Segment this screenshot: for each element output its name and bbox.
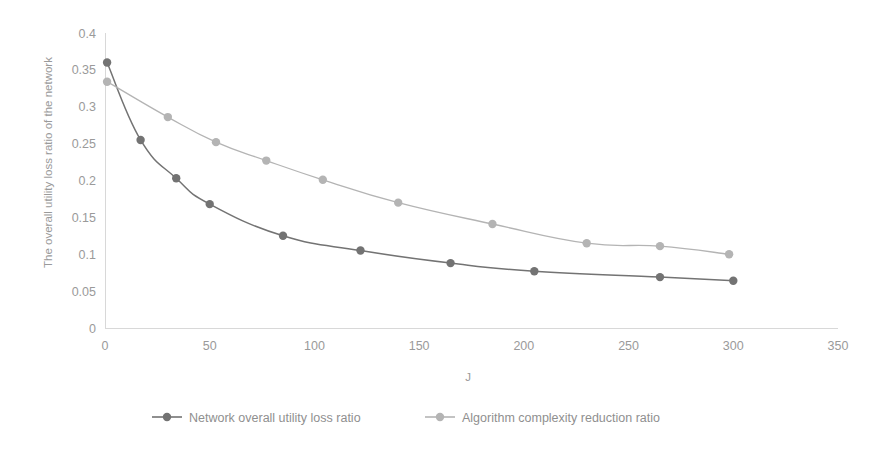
series-line [107, 63, 733, 281]
x-axis-tick-labels: 050100150200250300350 [102, 339, 849, 353]
series-marker [488, 220, 496, 228]
y-tick-label: 0.35 [72, 63, 96, 77]
legend-item-label: Algorithm complexity reduction ratio [462, 411, 660, 425]
series-marker [206, 200, 214, 208]
series-marker [725, 250, 733, 258]
x-tick-label: 50 [203, 339, 217, 353]
x-tick-label: 300 [723, 339, 744, 353]
legend-marker-swatch [163, 413, 171, 421]
chart-container: 00.050.10.150.20.250.30.350.4 0501001502… [0, 0, 880, 453]
legend-item-label: Network overall utility loss ratio [189, 411, 361, 425]
series-marker [656, 273, 664, 281]
series-marker [356, 246, 364, 254]
x-axis-title: J [465, 371, 471, 383]
series-marker [394, 198, 402, 206]
series-marker [172, 174, 180, 182]
y-axis-tick-labels: 00.050.10.150.20.250.30.350.4 [72, 27, 96, 336]
chart-legend: Network overall utility loss ratioAlgori… [152, 411, 660, 425]
series-marker [446, 259, 454, 267]
y-tick-label: 0.25 [72, 137, 96, 151]
y-tick-label: 0.15 [72, 211, 96, 225]
series-marker [103, 58, 111, 66]
x-tick-label: 250 [618, 339, 639, 353]
series-marker [164, 113, 172, 121]
line-chart: 00.050.10.150.20.250.30.350.4 0501001502… [0, 0, 880, 453]
y-axis-title: The overall utility loss ratio of the ne… [42, 57, 54, 268]
series-marker [656, 242, 664, 250]
series-marker [279, 232, 287, 240]
x-tick-label: 200 [513, 339, 534, 353]
series-marker [136, 136, 144, 144]
x-tick-label: 100 [304, 339, 325, 353]
series-line [107, 82, 729, 255]
y-tick-label: 0.05 [72, 285, 96, 299]
series-marker [729, 277, 737, 285]
x-tick-label: 350 [828, 339, 849, 353]
y-tick-label: 0.4 [79, 27, 96, 41]
series-marker [582, 239, 590, 247]
series-marker [262, 156, 270, 164]
y-tick-label: 0.2 [79, 174, 96, 188]
series-marker [319, 176, 327, 184]
y-tick-label: 0.3 [79, 100, 96, 114]
data-series-group [103, 58, 738, 285]
series-marker [212, 138, 220, 146]
y-tick-label: 0.1 [79, 248, 96, 262]
y-tick-label: 0 [89, 322, 96, 336]
x-tick-label: 0 [102, 339, 109, 353]
x-tick-label: 150 [409, 339, 430, 353]
legend-marker-swatch [436, 413, 444, 421]
series-marker [103, 77, 111, 85]
series-marker [530, 267, 538, 275]
